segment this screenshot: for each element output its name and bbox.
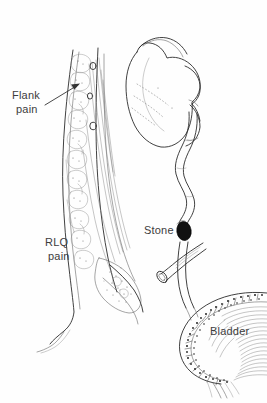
figure-background [0, 0, 267, 403]
medical-illustration-figure: Flank pain RLQ pain Stone Bladder [0, 0, 267, 403]
kidney-dot [172, 108, 173, 109]
flank-pain-label-line2: pain [16, 103, 38, 115]
kidney-dot [158, 88, 159, 89]
anatomy-drawing: Flank pain RLQ pain Stone Bladder [0, 0, 267, 403]
rlq-pain-label-line2: pain [48, 250, 70, 262]
rlq-pain-label-line1: RLQ [45, 236, 68, 248]
flank-pain-label-line1: Flank [12, 89, 40, 101]
bladder-label: Bladder [210, 325, 249, 337]
stone-label: Stone [144, 224, 174, 236]
